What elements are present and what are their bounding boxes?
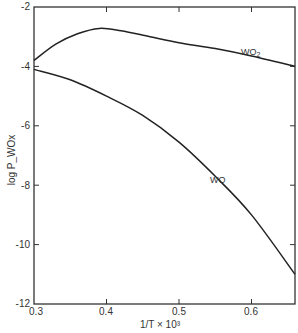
y-tick-label: -6	[21, 120, 30, 131]
y-tick-label: -10	[16, 239, 31, 250]
series-lines	[34, 28, 295, 274]
x-tick-label: 0.4	[99, 306, 113, 317]
series-line-wo	[34, 69, 295, 274]
y-tick-label: -2	[21, 1, 30, 12]
x-tick-label: 0.5	[172, 306, 186, 317]
x-tick-label: 0.6	[244, 306, 258, 317]
series-label-wo2: WO2	[241, 47, 261, 58]
y-axis-label: log P_WOx	[6, 135, 17, 186]
x-axis-label: 1/T × 10³	[140, 319, 181, 330]
x-tick-label: 0.3	[29, 306, 43, 317]
y-tick-label: -8	[21, 180, 30, 191]
series-label-wo: WO	[210, 175, 226, 185]
y-tick-label: -4	[21, 61, 30, 72]
chart: -2 -4 -6 -8 -10 -12 0.3 0.4 0.5 0.6 1/T …	[0, 0, 298, 333]
